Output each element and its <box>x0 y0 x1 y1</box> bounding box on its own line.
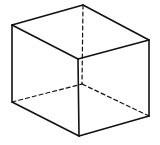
cube-diagram <box>0 0 160 145</box>
visible-edge-0 <box>12 5 83 25</box>
visible-edge-8 <box>79 116 149 136</box>
visible-edge-1 <box>83 5 149 40</box>
visible-edge-3 <box>78 40 149 59</box>
hidden-edge-2 <box>82 84 149 116</box>
visible-edge-5 <box>78 59 79 136</box>
hidden-edge-1 <box>12 84 82 102</box>
hidden-edge-0 <box>82 5 83 84</box>
visible-edge-2 <box>12 25 78 59</box>
visible-edge-7 <box>12 102 79 136</box>
